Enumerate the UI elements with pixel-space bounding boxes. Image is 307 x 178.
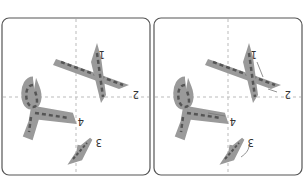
stroke-number-2: 2 [285, 89, 291, 100]
stroke-panel-right: 1 2 3 4 [153, 17, 303, 176]
stroke-panel-left: 1 2 3 4 [1, 17, 151, 176]
stroke-number-1: 1 [99, 49, 105, 60]
stroke-number-3: 3 [248, 137, 254, 148]
stroke-number-4: 4 [230, 116, 236, 127]
stroke-number-1: 1 [251, 49, 257, 60]
stroke-number-2: 2 [133, 89, 139, 100]
stroke-number-4: 4 [78, 116, 84, 127]
stroke-number-3: 3 [96, 137, 102, 148]
